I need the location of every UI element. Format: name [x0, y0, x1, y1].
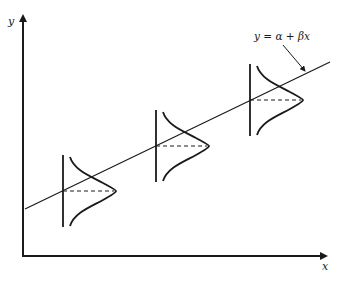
regression-diagram: y x y = α + βx: [0, 0, 345, 283]
error-distribution-2: [156, 110, 209, 182]
regression-line: [25, 62, 330, 209]
error-distribution-3: [250, 64, 303, 136]
x-axis-label: x: [322, 260, 329, 273]
equation-pointer-arrow: [283, 45, 305, 71]
axes: y x: [7, 15, 329, 273]
error-distribution-1: [63, 155, 116, 227]
regression-equation-label: y = α + βx: [253, 30, 310, 42]
y-axis-label: y: [7, 15, 15, 28]
